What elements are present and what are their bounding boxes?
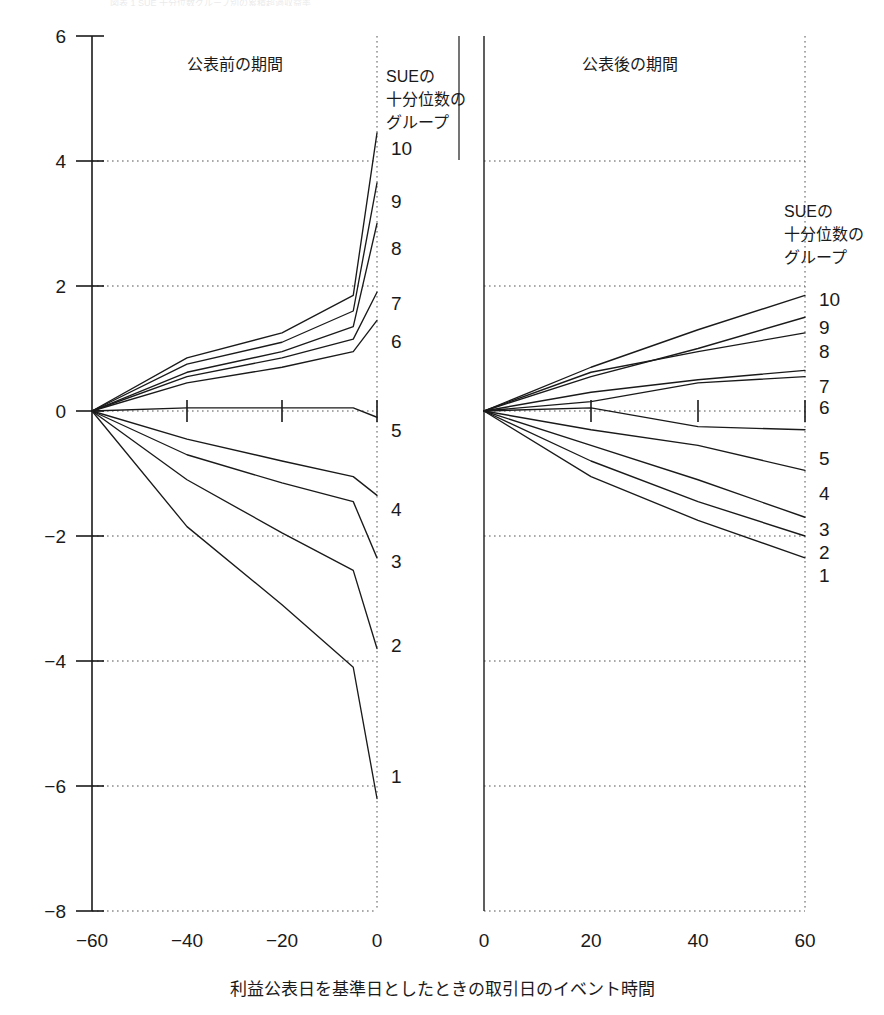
x-tick-label-left: −20 (266, 930, 298, 951)
y-tick-label: −2 (44, 526, 66, 547)
x-axis-label: 利益公表日を基準日としたときの取引日のイベント時間 (230, 980, 655, 999)
series-line-8 (92, 224, 377, 412)
y-tick-label: 2 (55, 276, 66, 297)
right-series-label-4: 4 (819, 483, 830, 504)
right-legend-line-2: 十分位数の (784, 226, 864, 243)
left-series-label-5: 5 (391, 420, 402, 441)
right-series-label-8: 8 (819, 341, 830, 362)
series-line-2 (92, 411, 377, 649)
left-legend-line-2: 十分位数の (386, 91, 466, 108)
left-series-label-2: 2 (391, 635, 402, 656)
chart-figure: 図表 1 SUE 十分位数グループ別の累積超過収益率 6420−2−4−6−8 … (0, 0, 884, 1015)
right-series-label-9: 9 (819, 317, 830, 338)
right-legend-line-1: SUEの (784, 203, 833, 220)
y-tick-label: −4 (44, 651, 66, 672)
left-series-label-1: 1 (391, 766, 402, 787)
right-panel-curves (484, 295, 805, 558)
y-tick-label: 6 (55, 26, 66, 47)
right-series-label-7: 7 (819, 376, 830, 397)
right-panel-legend-title: SUEの十分位数のグループ (784, 203, 864, 266)
series-line-9 (484, 317, 805, 411)
series-line-2 (484, 411, 805, 536)
series-line-9 (92, 183, 377, 411)
left-series-label-10: 10 (391, 138, 412, 159)
left-panel-title: 公表前の期間 (187, 56, 283, 73)
left-series-label-7: 7 (391, 293, 402, 314)
left-panel-curves (92, 133, 377, 799)
left-series-label-9: 9 (391, 191, 402, 212)
series-line-5 (92, 408, 377, 417)
series-line-4 (92, 411, 377, 495)
right-series-label-6: 6 (819, 397, 830, 418)
right-series-label-10: 10 (819, 289, 840, 310)
y-tick-label: 0 (55, 401, 66, 422)
right-panel-title: 公表後の期間 (582, 56, 678, 73)
series-line-10 (92, 133, 377, 411)
x-tick-label-right: 0 (479, 930, 490, 951)
x-tick-label-right: 60 (794, 930, 815, 951)
axes-group (76, 36, 805, 911)
right-series-label-3: 3 (819, 519, 830, 540)
y-tick-label: −8 (44, 901, 66, 922)
chart-canvas: 6420−2−4−6−8 −60−40−2000204060 109876543… (0, 0, 884, 1015)
x-tick-label-left: −60 (76, 930, 108, 951)
x-tick-label-right: 20 (580, 930, 601, 951)
left-series-label-4: 4 (391, 499, 402, 520)
right-series-label-5: 5 (819, 448, 830, 469)
right-series-label-2: 2 (819, 542, 830, 563)
x-tick-label-left: −40 (171, 930, 203, 951)
gridlines-group (92, 36, 805, 911)
x-tick-label-right: 40 (687, 930, 708, 951)
y-axis-tick-labels: 6420−2−4−6−8 (44, 26, 66, 922)
left-series-label-8: 8 (391, 238, 402, 259)
right-series-label-1: 1 (819, 565, 830, 586)
left-legend-line-3: グループ (386, 114, 449, 131)
y-tick-label: −6 (44, 776, 66, 797)
right-legend-line-3: グループ (784, 249, 847, 266)
series-line-3 (484, 411, 805, 517)
left-series-label-3: 3 (391, 551, 402, 572)
left-series-label-6: 6 (391, 331, 402, 352)
left-legend-line-1: SUEの (386, 68, 435, 85)
x-tick-label-left: 0 (372, 930, 383, 951)
series-line-3 (92, 411, 377, 558)
y-tick-label: 4 (55, 151, 66, 172)
x-axis-tick-labels: −60−40−2000204060 (76, 930, 816, 951)
series-line-8 (484, 333, 805, 411)
